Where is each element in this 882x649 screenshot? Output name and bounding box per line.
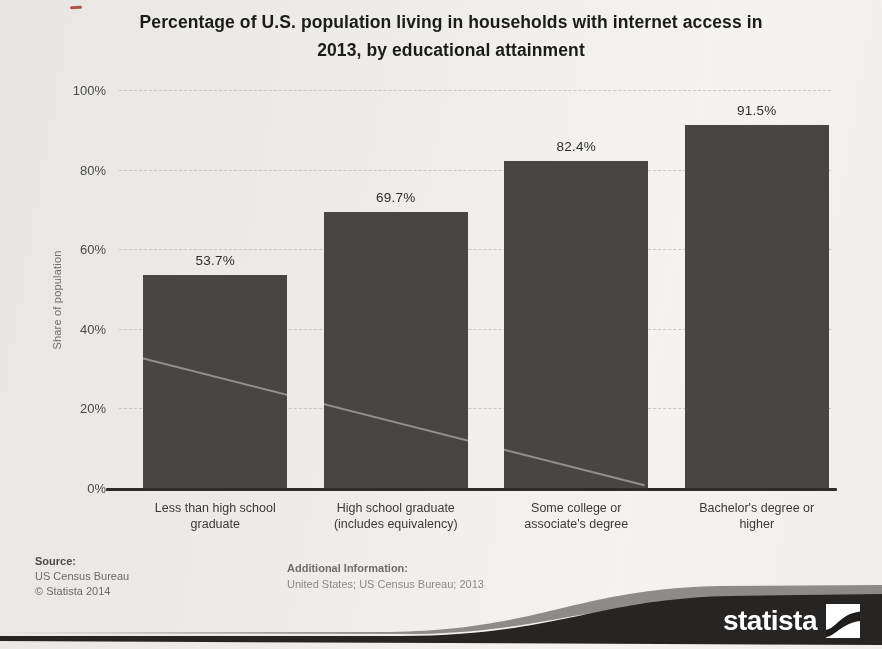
source-heading: Source:	[35, 554, 129, 569]
bar-slot-4: 91.5%	[667, 91, 848, 489]
brand-band: statista	[0, 585, 882, 649]
bar-2: 69.7%	[324, 212, 468, 489]
category-labels: Less than high school graduateHigh schoo…	[125, 500, 847, 532]
bar-slot-2: 69.7%	[306, 91, 487, 489]
bar-3: 82.4%	[504, 161, 648, 489]
category-label-3: Some college or associate's degree	[486, 500, 667, 532]
y-tick-label-0%: 0%	[0, 482, 106, 496]
y-tick-label-80%: 80%	[0, 164, 106, 178]
chart-page: Percentage of U.S. population living in …	[0, 0, 882, 649]
y-tick-label-60%: 60%	[0, 243, 106, 257]
bar-4: 91.5%	[685, 125, 829, 489]
bar-value-label-4: 91.5%	[665, 103, 849, 118]
bar-slot-3: 82.4%	[486, 91, 667, 489]
statista-logo: statista	[723, 604, 860, 638]
additional-info-heading: Additional Information:	[287, 560, 484, 576]
statista-wordmark: statista	[723, 604, 817, 638]
y-tick-label-20%: 20%	[0, 402, 106, 416]
category-label-4: Bachelor's degree or higher	[667, 500, 848, 532]
bar-slot-1: 53.7%	[125, 91, 306, 489]
bar-1: 53.7%	[143, 275, 287, 489]
category-label-1: Less than high school graduate	[125, 500, 306, 532]
y-axis-ticks: 0%20%40%60%80%100%	[0, 91, 106, 489]
category-label-2: High school graduate (includes equivalen…	[306, 500, 487, 532]
bar-value-label-3: 82.4%	[484, 139, 668, 154]
bars: 53.7%69.7%82.4%91.5%	[125, 91, 847, 489]
bar-value-label-1: 53.7%	[123, 253, 307, 268]
y-tick-label-40%: 40%	[0, 323, 106, 337]
y-tick-label-100%: 100%	[0, 84, 106, 98]
plot-area: 53.7%69.7%82.4%91.5%	[125, 91, 847, 489]
bar-value-label-2: 69.7%	[304, 190, 488, 205]
source-line-1: US Census Bureau	[35, 569, 129, 584]
chart-title: Percentage of U.S. population living in …	[55, 8, 847, 64]
statista-signet-icon	[826, 604, 860, 638]
x-axis-line	[106, 488, 837, 491]
